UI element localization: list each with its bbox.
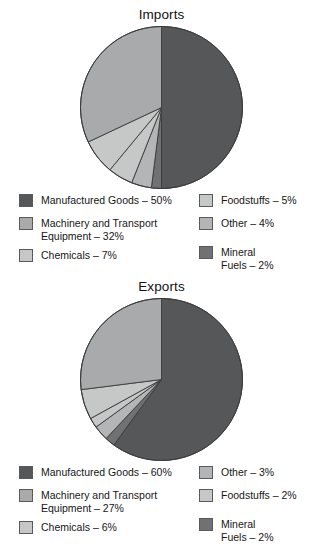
legend-label-mineral-fuels: Mineral Fuels – 2%	[221, 245, 274, 271]
legend-item-other[interactable]: Other – 4%	[199, 216, 323, 234]
swatch-mineral-fuels-icon	[199, 246, 213, 259]
pie-slice-machinery-and-transport-equipment	[81, 299, 162, 390]
swatch-foodstuffs-icon	[199, 194, 213, 207]
swatch-chemicals-icon	[19, 521, 33, 534]
exports-legend-right-column: Other – 3% Foodstuffs – 2% Mineral Fuels…	[199, 465, 323, 545]
legend-label-foodstuffs: Foodstuffs – 5%	[221, 193, 297, 207]
swatch-other-icon	[199, 466, 213, 479]
swatch-chemicals-icon	[19, 249, 33, 262]
legend-label-other: Other – 3%	[221, 465, 274, 479]
legend-label-other: Other – 4%	[221, 216, 274, 230]
legend-label-machinery-and-transport-equipment: Machinery and Transport Equipment – 32%	[41, 216, 157, 242]
legend-item-mineral-fuels[interactable]: Mineral Fuels – 2%	[199, 245, 323, 271]
imports-legend-right-column: Foodstuffs – 5% Other – 4% Mineral Fuels…	[199, 193, 323, 276]
pie-slice-manufactured-goods	[162, 27, 243, 189]
legend-label-mineral-fuels: Mineral Fuels – 2%	[221, 517, 274, 543]
legend-item-manufactured-goods[interactable]: Manufactured Goods – 50%	[19, 193, 187, 211]
legend-item-foodstuffs[interactable]: Foodstuffs – 2%	[199, 488, 323, 506]
swatch-mineral-fuels-icon	[199, 518, 213, 531]
imports-pie-chart	[79, 25, 244, 190]
imports-pie-container	[0, 25, 323, 190]
imports-chart-block: Imports Manufactured Goods – 50% Machine…	[0, 0, 323, 277]
legend-item-machinery-and-transport-equipment[interactable]: Machinery and Transport Equipment – 32%	[19, 216, 187, 242]
legend-item-chemicals[interactable]: Chemicals – 7%	[19, 248, 187, 266]
legend-label-chemicals: Chemicals – 6%	[41, 520, 117, 534]
exports-chart-block: Exports Manufactured Goods – 60% Machine…	[0, 272, 323, 545]
legend-item-manufactured-goods[interactable]: Manufactured Goods – 60%	[19, 465, 187, 483]
legend-item-foodstuffs[interactable]: Foodstuffs – 5%	[199, 193, 323, 211]
imports-legend-left-column: Manufactured Goods – 50% Machinery and T…	[19, 193, 187, 271]
legend-label-manufactured-goods: Manufactured Goods – 50%	[41, 193, 172, 207]
swatch-machinery-and-transport-equipment-icon	[19, 489, 33, 502]
legend-label-foodstuffs: Foodstuffs – 2%	[221, 488, 297, 502]
imports-chart-title: Imports	[0, 0, 323, 24]
legend-label-machinery-and-transport-equipment: Machinery and Transport Equipment – 27%	[41, 488, 157, 514]
legend-item-other[interactable]: Other – 3%	[199, 465, 323, 483]
legend-label-chemicals: Chemicals – 7%	[41, 248, 117, 262]
exports-pie-chart	[79, 297, 244, 462]
legend-item-machinery-and-transport-equipment[interactable]: Machinery and Transport Equipment – 27%	[19, 488, 187, 514]
legend-item-mineral-fuels[interactable]: Mineral Fuels – 2%	[199, 517, 323, 543]
swatch-machinery-and-transport-equipment-icon	[19, 217, 33, 230]
exports-chart-title: Exports	[0, 272, 323, 296]
swatch-other-icon	[199, 217, 213, 230]
legend-item-chemicals[interactable]: Chemicals – 6%	[19, 520, 187, 538]
swatch-manufactured-goods-icon	[19, 466, 33, 479]
exports-pie-container	[0, 297, 323, 462]
exports-legend-left-column: Manufactured Goods – 60% Machinery and T…	[19, 465, 187, 543]
imports-legend: Manufactured Goods – 50% Machinery and T…	[0, 193, 323, 277]
exports-legend: Manufactured Goods – 60% Machinery and T…	[0, 465, 323, 545]
swatch-foodstuffs-icon	[199, 489, 213, 502]
legend-label-manufactured-goods: Manufactured Goods – 60%	[41, 465, 172, 479]
swatch-manufactured-goods-icon	[19, 194, 33, 207]
